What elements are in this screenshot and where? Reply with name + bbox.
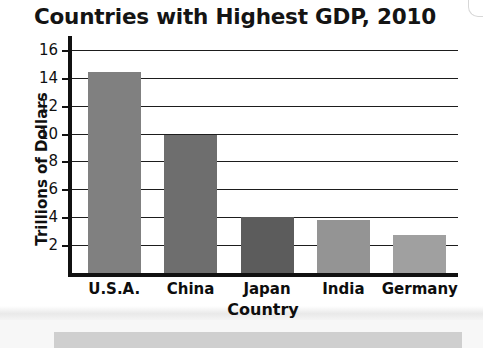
y-tick-label: 16	[39, 41, 58, 59]
plot-area: 246810121416 U.S.A.ChinaJapanIndiaGerman…	[68, 36, 458, 277]
y-axis-line	[68, 36, 72, 277]
y-tick-label: 10	[39, 125, 58, 143]
y-axis-tick	[62, 245, 69, 247]
scanned-page: Countries with Highest GDP, 2010 Trillio…	[0, 0, 483, 348]
y-tick-label: 2	[48, 236, 58, 254]
y-axis-tick	[62, 161, 69, 163]
page-bottom-strip	[54, 332, 462, 348]
x-axis-title: Country	[68, 300, 458, 319]
x-tick-label: U.S.A.	[88, 280, 140, 298]
bar	[241, 217, 294, 273]
y-tick-label: 14	[39, 69, 58, 87]
y-axis-tick	[62, 106, 69, 108]
x-tick-label: Japan	[243, 280, 290, 298]
bar	[393, 235, 446, 273]
y-axis-tick	[62, 189, 69, 191]
x-tick-label: India	[322, 280, 364, 298]
y-axis-tick	[62, 134, 69, 136]
x-tick-label: Germany	[382, 280, 458, 298]
gridline	[72, 50, 458, 51]
y-tick-label: 12	[39, 97, 58, 115]
x-tick-label: China	[167, 280, 215, 298]
bar	[88, 72, 141, 273]
chart-title: Countries with Highest GDP, 2010	[0, 4, 470, 29]
y-axis-tick	[62, 50, 69, 52]
y-axis-tick	[62, 78, 69, 80]
y-tick-label: 8	[48, 152, 58, 170]
y-axis-tick	[62, 217, 69, 219]
y-tick-label: 4	[48, 208, 58, 226]
y-tick-label: 6	[48, 180, 58, 198]
bar	[317, 220, 370, 273]
x-axis-line	[68, 273, 458, 277]
bar	[164, 135, 217, 273]
